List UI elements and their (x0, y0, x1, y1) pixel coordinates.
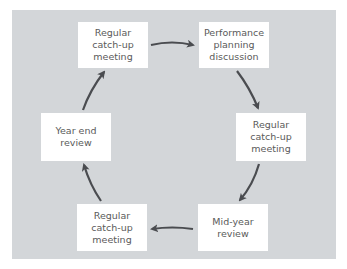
arrow-n4-to-n5 (152, 228, 193, 230)
node-year-end-review: Year end review (41, 113, 111, 161)
node-label-line: catch-up (91, 222, 133, 234)
arrow-n6-to-n1 (83, 72, 104, 110)
node-label-line: Performance (204, 27, 264, 39)
node-label-line: catch-up (250, 131, 292, 143)
node-regular-catch-up-meeting-top: Regular catch-up meeting (78, 22, 148, 68)
node-label-line: Year end (55, 125, 96, 137)
arrow-n1-to-n2 (151, 43, 193, 46)
node-regular-catch-up-meeting-bottom: Regular catch-up meeting (77, 204, 147, 251)
node-label-line: Mid-year (212, 216, 253, 228)
node-label-line: review (212, 228, 253, 240)
node-regular-catch-up-meeting-right: Regular catch-up meeting (236, 113, 306, 161)
node-label-line: meeting (250, 143, 292, 155)
node-label-line: catch-up (92, 39, 134, 51)
node-label-line: Regular (91, 210, 133, 222)
node-performance-planning-discussion: Performance planning discussion (199, 22, 269, 68)
node-label-line: discussion (204, 51, 264, 63)
arrow-n2-to-n3 (237, 71, 258, 108)
node-label-line: meeting (92, 51, 134, 63)
node-mid-year-review: Mid-year review (198, 204, 268, 251)
arrow-n3-to-n4 (240, 164, 259, 200)
node-label-line: review (55, 137, 96, 149)
node-label-line: meeting (91, 234, 133, 246)
node-label-line: Regular (92, 27, 134, 39)
node-label-line: planning (204, 39, 264, 51)
arrow-n5-to-n6 (84, 165, 101, 201)
node-label-line: Regular (250, 119, 292, 131)
